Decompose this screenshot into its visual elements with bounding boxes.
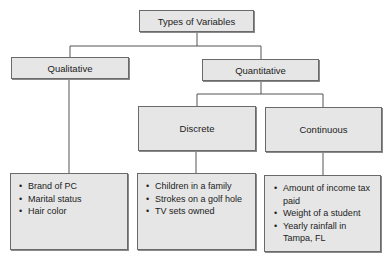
root-node-types-of-variables: Types of Variables — [139, 10, 254, 32]
discrete-examples-box: Children in a family Strokes on a golf h… — [137, 173, 256, 250]
list-item: Amount of income tax paid — [274, 182, 374, 207]
list-item: Marital status — [19, 193, 121, 206]
node-continuous: Continuous — [265, 107, 382, 152]
continuous-examples-list: Amount of income tax paid Weight of a st… — [274, 182, 374, 245]
node-qualitative-label: Qualitative — [48, 63, 93, 74]
list-item: Hair color — [19, 205, 121, 218]
list-item: Weight of a student — [274, 207, 374, 220]
continuous-examples-box: Amount of income tax paid Weight of a st… — [264, 175, 381, 252]
list-item: Strokes on a golf hole — [146, 193, 249, 206]
list-item: Brand of PC — [19, 180, 121, 193]
node-discrete: Discrete — [138, 106, 256, 151]
node-qualitative: Qualitative — [11, 57, 129, 79]
qualitative-examples-list: Brand of PC Marital status Hair color — [19, 180, 121, 218]
node-quantitative: Quantitative — [202, 59, 319, 81]
list-item: Yearly rainfall in Tampa, FL — [274, 220, 374, 245]
list-item: TV sets owned — [146, 205, 249, 218]
list-item: Children in a family — [146, 180, 249, 193]
discrete-examples-list: Children in a family Strokes on a golf h… — [146, 180, 249, 218]
node-continuous-label: Continuous — [299, 124, 347, 135]
qualitative-examples-box: Brand of PC Marital status Hair color — [10, 173, 128, 250]
node-quantitative-label: Quantitative — [235, 65, 286, 76]
node-discrete-label: Discrete — [180, 123, 215, 134]
root-node-label: Types of Variables — [158, 16, 235, 27]
